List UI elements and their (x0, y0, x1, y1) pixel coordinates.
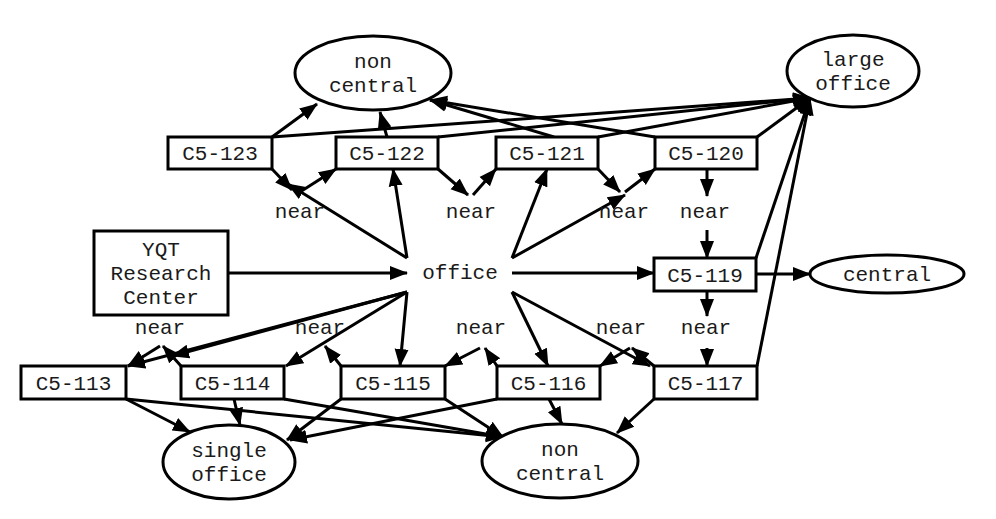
node-label: office (422, 262, 498, 285)
near-label: near (446, 201, 496, 224)
node-label: C5-116 (511, 373, 587, 396)
node-label: C5-113 (36, 373, 112, 396)
edge-c5-117-to-non-central-bottom (617, 399, 654, 433)
node-label: office (815, 73, 891, 96)
node-large-office: largeoffice (787, 35, 919, 107)
node-label: single (191, 440, 267, 463)
edge-c5-116-to-non-central-bottom (549, 399, 562, 424)
near-label: near (135, 317, 185, 340)
edge-office-to-c5-122 (393, 169, 407, 258)
node-label: YQT (142, 239, 180, 262)
node-label: C5-114 (195, 373, 271, 396)
node-label: Research (111, 263, 212, 286)
edge-c5-123-to-near-1 (272, 169, 292, 190)
node-label: non (541, 439, 579, 462)
node-c5-114: C5-114 (181, 366, 284, 399)
edge-near-3-to-c5-120 (625, 169, 655, 192)
node-single-office: singleoffice (163, 425, 295, 499)
edge-near-2-to-c5-121 (473, 169, 496, 195)
node-yqt: YQTResearchCenter (94, 231, 228, 315)
edge-c5-116-to-near-7 (485, 348, 497, 366)
node-non-central-bottom: noncentral (482, 424, 638, 498)
node-label: central (329, 75, 417, 98)
node-label: C5-117 (668, 373, 744, 396)
edge-near-8-to-c5-116 (600, 348, 630, 366)
node-c5-119: C5-119 (654, 258, 756, 291)
near-label: near (599, 201, 649, 224)
node-label: C5-123 (182, 143, 258, 166)
near-label: near (295, 317, 345, 340)
edge-c5-115-to-near-6 (325, 346, 341, 366)
edge-c5-122-to-near-2 (438, 169, 468, 195)
node-label: C5-115 (355, 373, 431, 396)
near-label: near (681, 317, 731, 340)
node-label: C5-121 (509, 143, 585, 166)
node-label: Center (123, 287, 199, 310)
edge-office-to-c5-121 (512, 169, 547, 258)
node-c5-120: C5-120 (655, 137, 757, 169)
near-label: near (275, 201, 325, 224)
edge-near-7-to-c5-115 (445, 348, 480, 366)
node-c5-121: C5-121 (496, 137, 598, 169)
edge-office-to-c5-115 (400, 292, 407, 366)
node-c5-113: C5-113 (21, 366, 126, 399)
node-c5-122: C5-122 (336, 137, 438, 169)
node-label: central (843, 264, 931, 287)
node-label: C5-122 (349, 143, 425, 166)
edge-c5-114-to-single-office (234, 399, 240, 425)
near-label: near (596, 317, 646, 340)
node-non-central-top: noncentral (295, 36, 451, 110)
node-c5-123: C5-123 (168, 137, 272, 169)
edge-near-1-to-c5-122 (300, 169, 336, 192)
semantic-network-diagram: C5-123C5-122C5-121C5-120noncentrallargeo… (0, 0, 996, 519)
edge-c5-123-to-non-central-top (272, 104, 317, 137)
node-c5-117: C5-117 (654, 366, 757, 399)
node-label: large (821, 49, 884, 72)
node-label: non (354, 51, 392, 74)
near-label: near (456, 317, 506, 340)
node-label: office (191, 464, 267, 487)
node-c5-116: C5-116 (497, 366, 600, 399)
node-label: C5-119 (667, 265, 743, 288)
edge-c5-121-to-near-3 (598, 169, 620, 192)
near-label: near (680, 201, 730, 224)
node-c5-115: C5-115 (341, 366, 445, 399)
node-central: central (810, 255, 964, 293)
node-office: office (422, 262, 498, 285)
node-label: central (516, 463, 604, 486)
edge-c5-122-to-non-central-top (380, 112, 387, 137)
node-label: C5-120 (668, 143, 744, 166)
